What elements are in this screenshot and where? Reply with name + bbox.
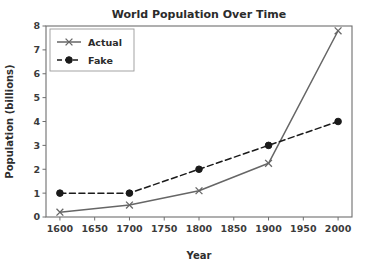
data-point-fake-1800 <box>196 166 203 173</box>
x-tick-label: 1900 <box>255 223 282 234</box>
x-tick-label: 1950 <box>290 223 317 234</box>
chart-title: World Population Over Time <box>112 8 286 21</box>
legend-label-actual: Actual <box>88 37 122 48</box>
y-axis-label: Population (billions) <box>4 64 15 178</box>
legend-marker-fake <box>66 57 73 64</box>
y-tick-label: 8 <box>33 20 40 31</box>
data-point-fake-1900 <box>265 142 272 149</box>
y-tick-label: 3 <box>33 140 40 151</box>
x-tick-label: 1700 <box>116 223 143 234</box>
legend-label-fake: Fake <box>88 55 113 66</box>
x-tick-label: 2000 <box>325 223 352 234</box>
y-tick-label: 5 <box>33 92 40 103</box>
world-population-line-chart: World Population Over Time 1600165017001… <box>0 0 365 269</box>
y-tick-label: 7 <box>33 44 40 55</box>
data-point-fake-1600 <box>57 190 64 197</box>
y-tick-label: 6 <box>33 68 40 79</box>
x-tick-label: 1850 <box>221 223 248 234</box>
y-tick-label: 4 <box>33 116 40 127</box>
chart-legend: ActualFake <box>50 29 134 71</box>
chart-figure: World Population Over Time 1600165017001… <box>0 0 365 269</box>
y-tick-label: 0 <box>33 211 40 222</box>
data-point-fake-1700 <box>126 190 133 197</box>
x-tick-label: 1600 <box>47 223 74 234</box>
y-tick-label: 1 <box>33 188 40 199</box>
x-axis-label: Year <box>186 250 212 261</box>
x-tick-label: 1800 <box>186 223 213 234</box>
x-tick-label: 1750 <box>151 223 178 234</box>
x-tick-label: 1650 <box>81 223 108 234</box>
y-tick-label: 2 <box>33 164 40 175</box>
data-point-fake-2000 <box>335 118 342 125</box>
